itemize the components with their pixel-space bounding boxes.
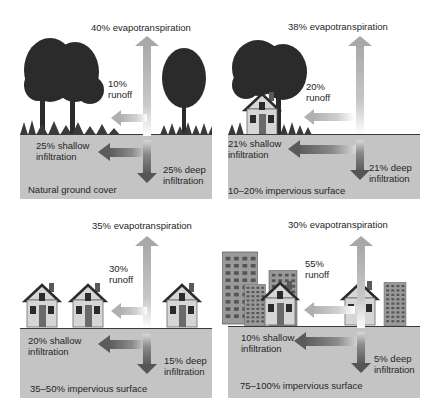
runoff-label: runoff: [306, 92, 330, 103]
deep-infiltration-label: infiltration: [369, 173, 410, 184]
shallow-infiltration-arrow-icon: [98, 335, 148, 353]
shallow-infiltration-percent-label: 25% shallow: [36, 140, 89, 151]
deep-infiltration-percent-label: 15% deep: [164, 355, 207, 366]
panel-natural-ground-cover: 40% evapotranspiration 10% runoff 25% sh…: [20, 0, 212, 200]
runoff-arrow-icon: [304, 109, 355, 125]
panel-caption: 75–100% impervious surface: [240, 380, 363, 391]
runoff-label: runoff: [109, 274, 133, 285]
runoff-percent-label: 30%: [109, 263, 128, 274]
deep-infiltration-label: infiltration: [164, 366, 205, 377]
evapotranspiration-label: 35% evapotranspiration: [92, 220, 192, 231]
runoff-percent-label: 20%: [306, 81, 325, 92]
runoff-arrow-icon: [304, 302, 355, 318]
panel-low-impervious: 38% evapotranspiration 20% runoff 21% sh…: [228, 0, 420, 200]
deep-infiltration-percent-label: 25% deep: [163, 164, 206, 175]
deep-infiltration-label: infiltration: [163, 175, 204, 186]
shallow-infiltration-percent-label: 20% shallow: [28, 335, 81, 346]
shallow-infiltration-arrow-icon: [288, 140, 356, 158]
shallow-infiltration-arrow-icon: [294, 332, 359, 350]
panel-caption: 35–50% impervious surface: [30, 383, 147, 394]
shallow-infiltration-arrow-icon: [98, 143, 148, 161]
panel-caption: 10–20% impervious surface: [228, 185, 345, 196]
runoff-percent-label: 10%: [108, 78, 127, 89]
panel-high-impervious: 30% evapotranspiration 55% runoff 10% sh…: [228, 200, 420, 400]
shallow-infiltration-label: infiltration: [228, 149, 269, 160]
shallow-infiltration-percent-label: 10% shallow: [241, 332, 294, 343]
deep-infiltration-percent-label: 5% deep: [374, 353, 412, 364]
runoff-label: runoff: [108, 89, 132, 100]
evapotranspiration-arrow-icon: [349, 236, 373, 328]
shallow-infiltration-label: infiltration: [241, 343, 282, 354]
panel-caption: Natural ground cover: [28, 184, 117, 195]
deep-infiltration-arrow-icon: [137, 140, 157, 183]
runoff-arrow-icon: [111, 110, 147, 126]
evapotranspiration-label: 38% evapotranspiration: [288, 21, 388, 32]
runoff-percent-label: 55%: [305, 258, 324, 269]
shallow-infiltration-percent-label: 21% shallow: [228, 138, 281, 149]
deep-infiltration-label: infiltration: [374, 364, 415, 375]
shallow-infiltration-label: infiltration: [28, 346, 69, 357]
deep-infiltration-percent-label: 21% deep: [369, 162, 412, 173]
evapotranspiration-label: 40% evapotranspiration: [91, 22, 191, 33]
panel-medium-impervious: 35% evapotranspiration 30% runoff 20% sh…: [20, 200, 212, 400]
runoff-label: runoff: [305, 269, 329, 280]
evapotranspiration-label: 30% evapotranspiration: [288, 219, 388, 230]
runoff-arrow-icon: [111, 303, 147, 319]
shallow-infiltration-label: infiltration: [36, 151, 77, 162]
